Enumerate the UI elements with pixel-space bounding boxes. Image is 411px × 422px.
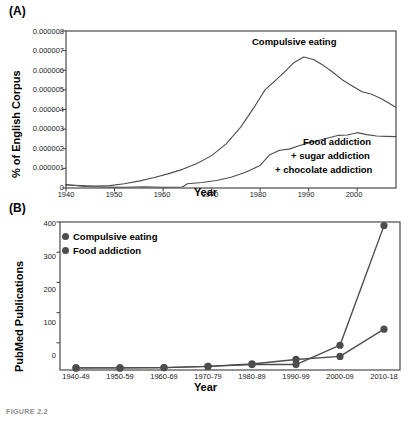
legend-dot-icon — [62, 233, 69, 240]
panel-a-annotation-food-addiction: Food addiction — [303, 136, 371, 147]
panel-b-xtick-3: 1970-79 — [187, 372, 229, 381]
panel-a-xtick-3: 1970 — [196, 190, 224, 199]
panel-b-chart: (B) PubMed Publications Year 400 300 200… — [0, 200, 411, 400]
panel-a-ytick-6: 0.000006 — [14, 66, 64, 75]
panel-b-ytick-300: 300 — [24, 252, 56, 261]
panel-b-xtick-7: 2010-18 — [363, 372, 405, 381]
panel-b-legend-item-compulsive-eating[interactable]: Compulsive eating — [62, 231, 157, 242]
panel-b-x-axis-title: Year — [0, 381, 411, 393]
panel-b-ytick-100: 100 — [24, 318, 56, 327]
panel-a-xtick-6: 2000 — [340, 190, 368, 199]
panel-a-ytick-3: 0.000003 — [14, 124, 64, 133]
panel-b-ytick-0: 0 — [24, 351, 56, 360]
panel-a-annotation-sugar-addiction: + sugar addiction — [291, 150, 370, 161]
panel-b-legend-label-food-addiction: Food addiction — [73, 245, 141, 256]
panel-a-annotation-compulsive-eating: Compulsive eating — [252, 36, 336, 47]
panel-b-ytick-400: 400 — [24, 219, 56, 228]
panel-a-xtick-2: 1960 — [148, 190, 176, 199]
legend-dot-icon — [62, 247, 69, 254]
panel-b-label: (B) — [9, 201, 26, 215]
panel-a-annotation-chocolate-addiction: + chocolate addiction — [275, 164, 372, 175]
figure-container: (A) % of English Corpus Year 0.000008 0.… — [0, 0, 411, 422]
panel-b-plot-area — [0, 200, 411, 400]
panel-a-chart: (A) % of English Corpus Year 0.000008 0.… — [0, 0, 411, 204]
panel-b-xtick-5: 1990-99 — [275, 372, 317, 381]
panel-b-xtick-0: 1940-49 — [55, 372, 97, 381]
panel-a-label: (A) — [9, 4, 26, 18]
panel-a-xtick-5: 1990 — [292, 190, 320, 199]
panel-b-xtick-2: 1960-69 — [143, 372, 185, 381]
panel-b-legend-item-food-addiction[interactable]: Food addiction — [62, 245, 141, 256]
panel-a-ytick-2: 0.000002 — [14, 144, 64, 153]
panel-a-xtick-0: 1940 — [52, 190, 80, 199]
panel-b-xtick-6: 2000-09 — [319, 372, 361, 381]
figure-caption: FIGURE 2.2 — [6, 408, 48, 417]
panel-a-xtick-1: 1950 — [100, 190, 128, 199]
panel-b-ytick-200: 200 — [24, 285, 56, 294]
panel-a-ytick-1: 0.000001 — [14, 163, 64, 172]
panel-b-xtick-4: 1980-89 — [231, 372, 273, 381]
panel-a-ytick-4: 0.000004 — [14, 105, 64, 114]
panel-a-ytick-7: 0.000007 — [14, 46, 64, 55]
panel-b-xtick-1: 1950-59 — [99, 372, 141, 381]
panel-a-ytick-5: 0.000005 — [14, 85, 64, 94]
panel-a-ytick-8: 0.000008 — [14, 27, 64, 36]
panel-a-xtick-4: 1980 — [244, 190, 272, 199]
panel-b-legend-label-compulsive-eating: Compulsive eating — [73, 231, 157, 242]
